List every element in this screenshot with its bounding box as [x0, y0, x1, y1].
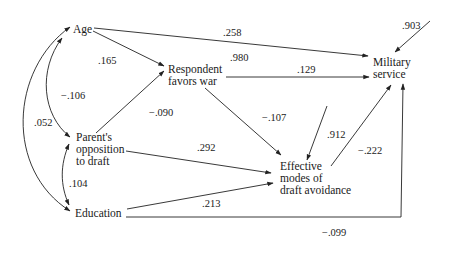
- coef-residual-military: .903: [402, 20, 420, 31]
- node-effective-line2: modes of: [280, 172, 351, 184]
- diagram-edges: [0, 0, 455, 255]
- edge-education-effective: [127, 183, 273, 209]
- edge-parent-education: [62, 144, 69, 205]
- coef-age-military: .258: [223, 27, 241, 38]
- coef-residual-respondent: .980: [230, 52, 248, 63]
- node-military-line2: service: [373, 68, 411, 80]
- edge-parent-respondent: [96, 71, 164, 133]
- coef-age-parent: −.106: [61, 90, 85, 101]
- coef-age-education: .052: [34, 117, 52, 128]
- node-effective-line3: draft avoidance: [280, 184, 351, 196]
- node-respondent-favors-war: Respondent favors war: [168, 63, 222, 87]
- coef-effective-military: −.222: [358, 145, 382, 156]
- coef-parent-effective: .292: [197, 142, 215, 153]
- node-parent-line2: opposition: [76, 143, 125, 155]
- node-respondent-line1: Respondent: [168, 63, 222, 75]
- coef-respondent-effective: −.107: [262, 112, 286, 123]
- coef-education-military: −.099: [322, 227, 346, 238]
- coef-parent-respondent: −.090: [149, 107, 173, 118]
- node-parent-line3: to draft: [76, 155, 125, 167]
- coef-education-effective: .213: [202, 198, 220, 209]
- node-parents-opposition: Parent's opposition to draft: [76, 131, 125, 167]
- node-military-service: Military service: [373, 56, 411, 80]
- edge-parent-effective: [126, 151, 271, 173]
- node-respondent-line2: favors war: [168, 75, 222, 87]
- coef-residual-effective: .912: [327, 129, 345, 140]
- node-age: Age: [73, 23, 92, 35]
- path-diagram: Age Respondent favors war Military servi…: [0, 0, 455, 255]
- node-military-line1: Military: [373, 56, 411, 68]
- node-education: Education: [75, 207, 122, 219]
- node-effective-modes: Effective modes of draft avoidance: [280, 160, 351, 196]
- edge-residual-effective: [307, 106, 327, 160]
- coef-age-respondent: .165: [98, 55, 116, 66]
- coef-parent-education: .104: [69, 178, 87, 189]
- coef-respondent-military: .129: [297, 64, 315, 75]
- node-effective-line1: Effective: [280, 160, 351, 172]
- node-parent-line1: Parent's: [76, 131, 125, 143]
